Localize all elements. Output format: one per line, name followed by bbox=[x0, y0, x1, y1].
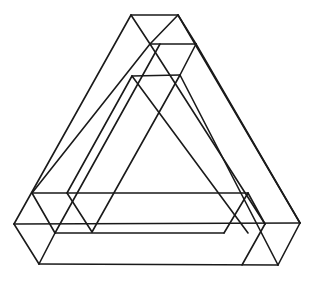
impossible-triangle-figure bbox=[0, 0, 317, 284]
wireframe-lines bbox=[14, 15, 300, 265]
